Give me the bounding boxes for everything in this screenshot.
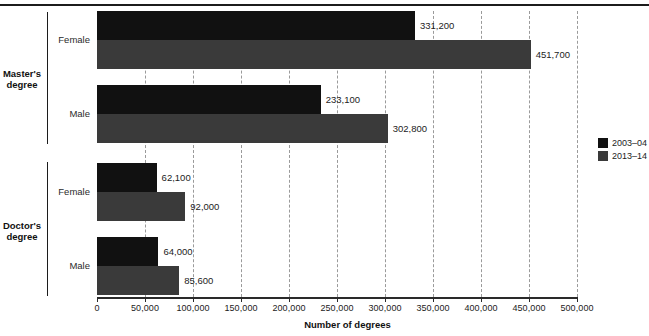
- x-axis-tick: [385, 297, 386, 302]
- bar-doctorsdegree-male-2003-04: [97, 237, 158, 266]
- x-axis-tick: [529, 297, 530, 302]
- x-axis-title: Number of degrees: [0, 319, 649, 330]
- x-axis-tick: [241, 297, 242, 302]
- x-axis-tick-label: 350,000: [416, 303, 449, 313]
- chart-legend: 2003–042013–14: [598, 138, 647, 164]
- legend-swatch-icon: [598, 138, 608, 148]
- category-group-label: Master'sdegree: [0, 68, 44, 90]
- category-group-bracket: [47, 162, 48, 296]
- x-axis-tick-label: 200,000: [272, 303, 305, 313]
- legend-swatch-icon: [598, 151, 608, 161]
- x-axis-tick-label: 300,000: [368, 303, 401, 313]
- category-group-label: Doctor'sdegree: [0, 220, 44, 242]
- x-axis-tick-label: 0: [94, 303, 99, 313]
- x-axis-tick: [481, 297, 482, 302]
- legend-item: 2003–04: [598, 138, 647, 148]
- bar-doctorsdegree-male-2013-14: [97, 266, 179, 295]
- category-group-label-line: Doctor's: [0, 220, 44, 231]
- bar-doctorsdegree-female-2013-14: [97, 192, 185, 221]
- x-axis-tick: [193, 297, 194, 302]
- x-axis-tick: [289, 297, 290, 302]
- bar-value-label: 331,200: [415, 11, 454, 40]
- legend-item: 2013–14: [598, 151, 647, 161]
- x-axis-tick: [337, 297, 338, 302]
- bar-value-label: 62,100: [157, 163, 191, 192]
- legend-label: 2013–14: [612, 151, 647, 161]
- gridline: [577, 11, 578, 297]
- bar-value-label: 302,800: [388, 114, 427, 143]
- x-axis-tick: [433, 297, 434, 302]
- x-axis-tick-label: 50,000: [131, 303, 159, 313]
- bar-value-label: 85,600: [179, 266, 213, 295]
- bar-value-label: 92,000: [185, 192, 219, 221]
- bar-mastersdegree-male-2003-04: [97, 85, 321, 114]
- x-axis-tick: [145, 297, 146, 302]
- x-axis-tick: [97, 297, 98, 302]
- x-axis-tick-label: 500,000: [560, 303, 593, 313]
- category-label-male: Male: [30, 108, 90, 119]
- category-group-label-line: Master's: [0, 68, 44, 79]
- x-axis-tick-label: 400,000: [464, 303, 497, 313]
- legend-label: 2003–04: [612, 138, 647, 148]
- x-axis-tick: [577, 297, 578, 302]
- category-label-male: Male: [30, 260, 90, 271]
- bar-value-label: 233,100: [321, 85, 360, 114]
- x-axis-tick-label: 450,000: [512, 303, 545, 313]
- x-axis-tick-label: 100,000: [176, 303, 209, 313]
- plot-area: 331,200451,700233,100302,80062,10092,000…: [97, 11, 577, 297]
- x-axis-tick-label: 150,000: [224, 303, 257, 313]
- bar-value-label: 64,000: [158, 237, 192, 266]
- bar-doctorsdegree-female-2003-04: [97, 163, 157, 192]
- top-divider-rule: [0, 4, 649, 6]
- category-group-bracket: [47, 12, 48, 144]
- category-group-label-line: degree: [0, 79, 44, 90]
- category-label-female: Female: [30, 186, 90, 197]
- bar-mastersdegree-female-2003-04: [97, 11, 415, 40]
- category-group-label-line: degree: [0, 231, 44, 242]
- bar-mastersdegree-male-2013-14: [97, 114, 388, 143]
- bar-mastersdegree-female-2013-14: [97, 40, 531, 69]
- category-label-female: Female: [30, 34, 90, 45]
- bar-value-label: 451,700: [531, 40, 570, 69]
- x-axis-tick-label: 250,000: [320, 303, 353, 313]
